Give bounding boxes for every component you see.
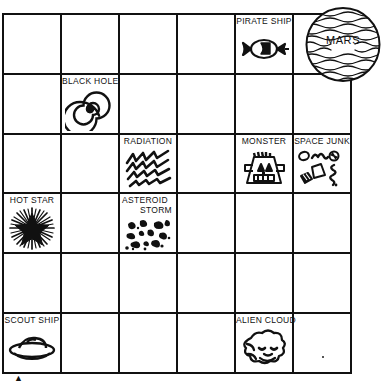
cell-r6c2[interactable] xyxy=(62,314,120,374)
board-origin-marker: ▲ xyxy=(14,376,20,381)
cell-r5c2[interactable] xyxy=(62,254,120,314)
monster-icon xyxy=(236,145,292,193)
cell-r1c5-pirate-ship[interactable]: PIRATE SHIP xyxy=(236,15,294,75)
cell-r3c4[interactable] xyxy=(178,135,236,195)
cell-r5c1[interactable] xyxy=(4,254,62,314)
pirate-ship-icon xyxy=(236,25,292,73)
cell-r2c5[interactable] xyxy=(236,75,294,135)
cell-r4c4[interactable] xyxy=(178,194,236,254)
asteroid-label-line2: STORM xyxy=(122,205,176,215)
hot-star-icon xyxy=(4,204,60,252)
cell-r4c2[interactable] xyxy=(62,194,120,254)
cell-r5c3[interactable] xyxy=(120,254,178,314)
cell-r5c5[interactable] xyxy=(236,254,294,314)
radiation-icon xyxy=(120,145,176,193)
cell-r6c6[interactable] xyxy=(294,314,352,374)
space-junk-icon xyxy=(294,145,350,193)
cell-r3c3-radiation[interactable]: RADIATION xyxy=(120,135,178,195)
cell-r6c4[interactable] xyxy=(178,314,236,374)
cell-r1c4[interactable] xyxy=(178,15,236,75)
alien-cloud-icon xyxy=(236,324,292,372)
cell-r2c3[interactable] xyxy=(120,75,178,135)
cell-r5c6[interactable] xyxy=(294,254,352,314)
cell-r4c3-asteroid-storm[interactable]: ASTEROID STORM xyxy=(120,194,178,254)
game-board: PIRATE SHIP BLACK HOLE xyxy=(2,13,352,374)
asteroid-label-line1: ASTEROID xyxy=(122,195,168,205)
grid: PIRATE SHIP BLACK HOLE xyxy=(2,13,352,374)
cell-label-asteroid-storm: ASTEROID STORM xyxy=(120,194,176,215)
cell-r4c1-hot-star[interactable]: HOT STAR xyxy=(4,194,62,254)
cell-r6c1-scout-ship[interactable]: SCOUT SHIP xyxy=(4,314,62,374)
cell-r3c6-space-junk[interactable]: SPACE JUNK xyxy=(294,135,352,195)
cell-r6c5-alien-cloud[interactable]: ALIEN CLOUD xyxy=(236,314,294,374)
cell-r1c3[interactable] xyxy=(120,15,178,75)
cell-r2c1[interactable] xyxy=(4,75,62,135)
cell-r2c6[interactable] xyxy=(294,75,352,135)
cell-r3c5-monster[interactable]: MONSTER xyxy=(236,135,294,195)
cell-r1c2[interactable] xyxy=(62,15,120,75)
stray-dot xyxy=(322,356,324,358)
scout-ship-icon xyxy=(4,324,60,372)
cell-r3c2[interactable] xyxy=(62,135,120,195)
cell-r2c2-black-hole[interactable]: BLACK HOLE xyxy=(62,75,120,135)
cell-r3c1[interactable] xyxy=(4,135,62,195)
cell-r1c1[interactable] xyxy=(4,15,62,75)
cell-r5c4[interactable] xyxy=(178,254,236,314)
black-hole-icon xyxy=(62,85,118,133)
cell-r6c3[interactable] xyxy=(120,314,178,374)
cell-r2c4[interactable] xyxy=(178,75,236,135)
cell-r4c6[interactable] xyxy=(294,194,352,254)
cell-r1c6[interactable] xyxy=(294,15,352,75)
asteroid-storm-icon xyxy=(120,216,176,252)
cell-r4c5[interactable] xyxy=(236,194,294,254)
